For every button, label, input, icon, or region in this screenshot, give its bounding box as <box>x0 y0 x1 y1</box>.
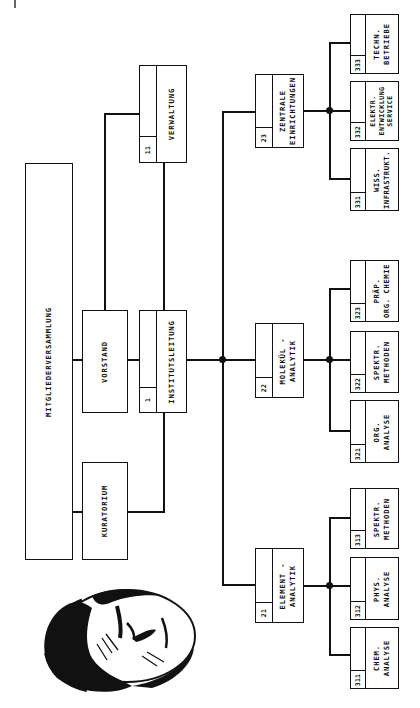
number-column: 1 <box>140 311 157 412</box>
direction-label: INSTITUTSLEITUNG <box>167 320 177 404</box>
number-cell: 1 <box>140 387 156 412</box>
connector-line <box>163 413 165 513</box>
administration-label: VERWALTUNG <box>167 88 177 140</box>
department-label: ELEMENT - ANALYTIK <box>278 562 298 609</box>
department-box-23: 23 ZENTRALE EINRICHTUNGEN <box>255 74 304 148</box>
group-box-322: 322 SPEKTR. METHODEN <box>350 331 399 393</box>
group-label: PRÄP. ORG. CHEMIE <box>372 264 392 318</box>
connector-line <box>329 42 350 44</box>
unit-number: 21 <box>259 608 269 616</box>
group-label: SPEKTR. METHODEN <box>372 341 392 383</box>
connector-line <box>329 517 350 519</box>
number-column: 11 <box>140 66 157 162</box>
unit-number: 313 <box>353 533 363 546</box>
group-label: CHEM. ANALYSE <box>372 640 392 677</box>
assembly-box: MITGLIEDERVERSAMMLUNG <box>25 163 73 560</box>
unit-number: 333 <box>353 58 363 71</box>
page-edge-mark <box>14 0 16 8</box>
connector-line <box>329 430 350 432</box>
trustees-box: KURATORIUM <box>82 462 128 560</box>
junction-dot <box>326 356 333 363</box>
connector-line <box>329 178 350 180</box>
group-box-321: 321 ORG. ANALYSE <box>350 400 399 463</box>
board-label: VORSTAND <box>100 341 110 383</box>
org-chart-page: MITGLIEDERVERSAMMLUNG VORSTAND KURATORIU… <box>0 0 420 708</box>
connector-line <box>329 288 350 290</box>
group-box-332: 332 ELEKTR. ENTWICKLUNG SERVICE <box>350 81 399 141</box>
connector-line <box>104 113 106 310</box>
junction-dot <box>326 107 333 114</box>
group-label: SPEKTR. METHODEN <box>372 498 392 540</box>
group-box-331: 331 WISS. INFRASTRUKT. <box>350 148 399 211</box>
unit-number: 1 <box>143 398 153 402</box>
number-cell: 11 <box>140 136 156 162</box>
trustees-label: KURATORIUM <box>100 485 110 537</box>
group-box-313: 313 SPEKTR. METHODEN <box>350 488 399 549</box>
group-label: WISS. INFRASTRUKT. <box>372 151 392 209</box>
group-box-311: 311 CHEM. ANALYSE <box>350 627 399 689</box>
direction-box: 1 INSTITUTSLEITUNG <box>139 310 187 413</box>
department-label: MOLEKÜL - ANALYTIK <box>278 337 298 384</box>
department-box-22: 22 MOLEKÜL - ANALYTIK <box>255 323 304 398</box>
connector-line <box>222 111 224 586</box>
connector-line <box>73 359 82 361</box>
connector-line <box>222 111 255 113</box>
group-box-333: 333 TECHN. BETRIEBE <box>350 14 399 74</box>
unit-number: 23 <box>259 133 269 141</box>
connector-line <box>128 359 139 361</box>
connector-line <box>73 511 82 513</box>
board-box: VORSTAND <box>82 310 128 413</box>
connector-line <box>104 113 139 115</box>
unit-number: 323 <box>353 306 363 319</box>
connector-line <box>163 163 165 310</box>
unit-number: 11 <box>143 145 153 153</box>
group-label: ELEKTR. ENTWICKLUNG SERVICE <box>369 86 395 135</box>
group-label: PHYS. ANALYSE <box>372 570 392 607</box>
unit-number: 331 <box>353 195 363 208</box>
junction-dot <box>219 356 226 363</box>
unit-number: 22 <box>259 383 269 391</box>
administration-box: 11 VERWALTUNG <box>139 65 187 163</box>
junction-dot <box>326 582 333 589</box>
unit-number: 332 <box>353 125 363 138</box>
department-box-21: 21 ELEMENT - ANALYTIK <box>255 548 304 623</box>
unit-number: 311 <box>353 673 363 686</box>
group-box-312: 312 PHYS. ANALYSE <box>350 557 399 620</box>
assembly-label: MITGLIEDERVERSAMMLUNG <box>44 307 54 417</box>
unit-number: 321 <box>353 447 363 460</box>
connector-line <box>128 511 165 513</box>
unit-number: 322 <box>353 377 363 390</box>
portrait-engraving-icon <box>32 578 204 698</box>
connector-line <box>329 654 350 656</box>
group-box-323: 323 PRÄP. ORG. CHEMIE <box>350 260 399 322</box>
connector-line <box>222 584 255 586</box>
group-label: TECHN. BETRIEBE <box>372 23 392 65</box>
department-label: ZENTRALE EINRICHTUNGEN <box>278 77 298 145</box>
group-label: ORG. ANALYSE <box>372 413 392 450</box>
unit-number: 312 <box>353 604 363 617</box>
